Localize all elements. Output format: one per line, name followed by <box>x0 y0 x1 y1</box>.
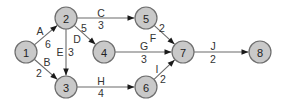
edge-activity-label: D <box>73 33 81 45</box>
edge-duration-label: 3 <box>141 53 147 65</box>
edge-activity-label: F <box>150 32 156 44</box>
node-label: 3 <box>63 82 69 94</box>
edge-activity-label: H <box>97 75 105 87</box>
edge-activity-label: J <box>210 40 215 52</box>
node-1: 1 <box>15 41 37 63</box>
node-7: 7 <box>172 41 194 63</box>
edge-activity-label: E <box>56 46 63 58</box>
node-label: 2 <box>63 13 69 25</box>
node-4: 4 <box>93 41 115 63</box>
node-label: 4 <box>101 47 107 59</box>
edge-duration-label: 2 <box>210 53 216 65</box>
edge-activity-label: G <box>140 40 148 52</box>
node-label: 6 <box>143 82 149 94</box>
edge-duration-label: 2 <box>160 73 166 85</box>
edge-duration-label: 4 <box>98 87 104 99</box>
edge-duration-label: 2 <box>36 67 42 79</box>
node-5: 5 <box>135 7 157 29</box>
node-label: 1 <box>23 47 29 59</box>
edge-duration-label: 5 <box>81 22 87 34</box>
edge-duration-label: 2 <box>159 22 165 34</box>
edge-duration-label: 3 <box>68 46 74 58</box>
node-2: 2 <box>55 7 77 29</box>
network-diagram: 12345678 A6B2C3D5E3F2G3H4I2J2 <box>0 0 287 105</box>
node-label: 8 <box>257 47 263 59</box>
edge-activity-label: A <box>36 25 43 37</box>
node-6: 6 <box>135 76 157 98</box>
edge-activity-label: B <box>43 56 50 68</box>
edge-duration-label: 6 <box>45 38 51 50</box>
edge-duration-label: 3 <box>98 19 104 31</box>
edge-activity-label: I <box>156 63 159 75</box>
node-8: 8 <box>249 41 271 63</box>
node-3: 3 <box>55 76 77 98</box>
node-label: 7 <box>180 47 186 59</box>
edge-activity-label: C <box>97 7 105 19</box>
node-label: 5 <box>143 13 149 25</box>
